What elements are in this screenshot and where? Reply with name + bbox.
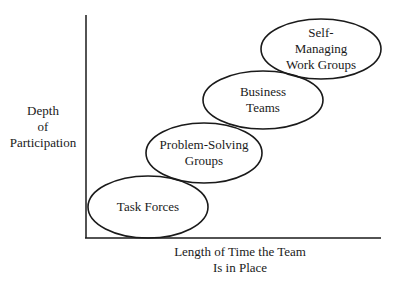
stage-label-problem-solving-groups: Problem-Solving Groups — [160, 137, 249, 169]
stage-label-self-managing-work-groups: Self-Managing Work Groups — [285, 25, 358, 73]
stage-label-business-teams: Business Teams — [240, 84, 286, 116]
stage-label-task-forces: Task Forces — [117, 199, 179, 215]
y-axis-label: Depth of Participation — [2, 103, 84, 151]
x-axis-label: Length of Time the Team Is in Place — [150, 244, 330, 276]
